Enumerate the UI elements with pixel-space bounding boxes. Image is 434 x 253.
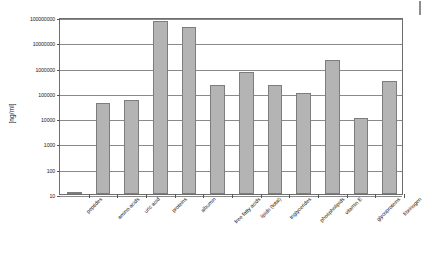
bar — [67, 192, 82, 194]
bar — [210, 85, 225, 194]
y-axis-tick-label: 100000 — [38, 92, 55, 98]
y-axis-tick-label: 10 — [49, 193, 55, 199]
bar — [296, 93, 311, 194]
x-axis-labels-group: peptidesamino acidsuric acidproteinsalbu… — [59, 196, 403, 253]
bar — [182, 27, 197, 194]
x-axis-category-label: phospholipids — [318, 196, 345, 223]
x-axis-category-label: peptides — [85, 196, 103, 214]
plot-area: 1000000001000000010000001000001000010001… — [59, 18, 403, 195]
y-axis-tick-label: 10000000 — [33, 41, 55, 47]
bar — [268, 85, 283, 194]
y-axis-tick-label: 1000 — [44, 142, 55, 148]
y-axis-tick-label: 10000 — [41, 117, 55, 123]
x-axis-category-label: lipids (total) — [259, 196, 282, 219]
bar — [96, 103, 111, 194]
bar — [354, 118, 369, 194]
bar — [325, 60, 340, 194]
scan-artifact-mark — [419, 1, 421, 15]
bar — [124, 100, 139, 194]
x-axis-category-label: vitamin E — [344, 196, 364, 216]
y-axis-title-container: [ng/ml] — [4, 90, 18, 150]
x-axis-category-label: triglycerides — [288, 196, 312, 220]
bar — [382, 81, 397, 194]
y-axis-tick-label: 1000000 — [36, 67, 56, 73]
bar — [239, 72, 254, 195]
bar — [153, 21, 168, 194]
bars-group — [60, 19, 402, 194]
x-axis-category-label: free fatty acids — [233, 196, 261, 224]
x-axis-category-label: uric acid — [142, 196, 160, 214]
x-axis-category-label: albumin — [199, 196, 216, 213]
y-axis-tick-label: 100 — [47, 168, 55, 174]
x-axis-tick — [404, 194, 405, 198]
x-axis-category-label: glycoproteins — [375, 196, 401, 222]
x-axis-category-label: fibrinogen — [401, 196, 422, 217]
x-axis-category-label: proteins — [171, 196, 189, 214]
y-axis-tick-label: 100000000 — [30, 16, 55, 22]
x-axis-category-label: amino acids — [116, 196, 140, 220]
y-axis-title: [ng/ml] — [8, 83, 15, 145]
chart-figure: [ng/ml] 10000000010000000100000010000010… — [0, 0, 434, 253]
